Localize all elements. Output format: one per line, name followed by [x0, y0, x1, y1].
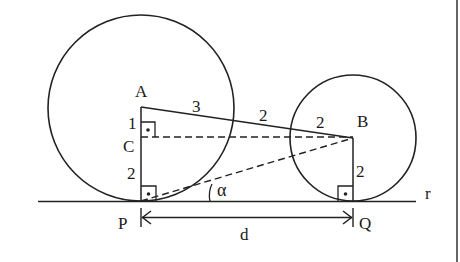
- label-b: B: [357, 112, 368, 131]
- right-angle-dot-c: [146, 128, 150, 132]
- label-p: P: [118, 214, 127, 233]
- angle-alpha-arc: [209, 184, 212, 202]
- label-cp: 2: [127, 164, 136, 183]
- label-c: C: [123, 137, 134, 156]
- label-alpha: α: [217, 180, 227, 200]
- label-radius-a: 3: [192, 97, 201, 116]
- label-d: d: [240, 225, 249, 244]
- label-r: r: [425, 184, 431, 203]
- geometry-figure: A B C P Q r 1 2 3 2 2 2 α d: [0, 0, 460, 262]
- label-gap: 2: [259, 106, 268, 125]
- label-bq: 2: [356, 162, 365, 181]
- label-ac: 1: [128, 114, 137, 133]
- right-angle-dot-q: [344, 192, 348, 196]
- label-q: Q: [359, 214, 371, 233]
- right-angle-dot-p: [147, 192, 151, 196]
- label-a: A: [135, 82, 148, 101]
- label-radius-b: 2: [316, 113, 325, 132]
